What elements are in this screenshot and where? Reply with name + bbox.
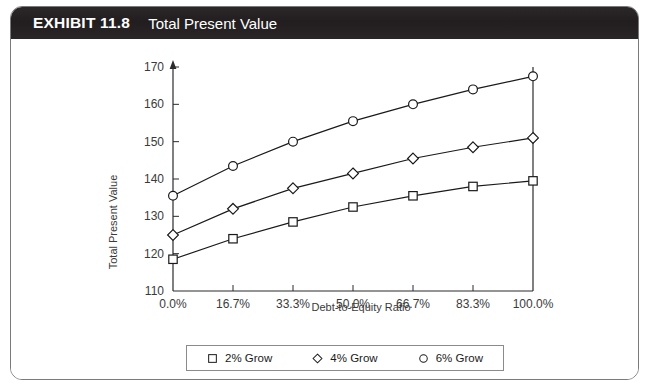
data-point-square bbox=[289, 218, 297, 226]
data-point-circle bbox=[289, 137, 298, 146]
data-point-diamond bbox=[288, 183, 299, 194]
data-point-diamond bbox=[468, 142, 479, 153]
y-axis-label: Total Present Value bbox=[107, 175, 119, 270]
x-axis-ticks: 0.0%16.7%33.3%50.0%66.7%83.3%100.0% bbox=[159, 285, 553, 311]
data-point-circle bbox=[529, 72, 538, 81]
legend-item-4pct: 4% Grow bbox=[292, 352, 397, 364]
y-tick-label: 150 bbox=[144, 135, 164, 149]
x-tick-label: 50.0% bbox=[336, 297, 370, 311]
exhibit-number: EXHIBIT 11.8 bbox=[33, 14, 130, 32]
y-tick-label: 140 bbox=[144, 172, 164, 186]
data-point-diamond bbox=[348, 168, 359, 179]
y-axis-arrow-icon bbox=[170, 60, 177, 69]
data-point-square bbox=[409, 192, 417, 200]
series-line bbox=[173, 181, 533, 259]
data-point-square bbox=[169, 255, 177, 263]
legend-label-6pct: 6% Grow bbox=[436, 352, 483, 364]
data-point-square bbox=[229, 235, 237, 243]
y-tick-label: 160 bbox=[144, 97, 164, 111]
line-chart-plot: Total Present Value Debt-to-Equity Ratio… bbox=[11, 39, 639, 380]
x-tick-label: 33.3% bbox=[276, 297, 310, 311]
legend-item-6pct: 6% Grow bbox=[398, 352, 503, 364]
x-tick-label: 0.0% bbox=[159, 297, 187, 311]
exhibit-header: EXHIBIT 11.8 Total Present Value bbox=[11, 7, 639, 39]
data-point-circle bbox=[469, 85, 478, 94]
series-group bbox=[168, 72, 539, 264]
legend-label-2pct: 2% Grow bbox=[225, 352, 272, 364]
y-tick-label: 130 bbox=[144, 209, 164, 223]
y-tick-label: 170 bbox=[144, 60, 164, 74]
y-tick-label: 120 bbox=[144, 247, 164, 261]
x-tick-label: 66.7% bbox=[396, 297, 430, 311]
data-point-square bbox=[529, 177, 537, 185]
exhibit-frame: EXHIBIT 11.8 Total Present Value Total P… bbox=[10, 6, 639, 380]
data-point-square bbox=[349, 203, 357, 211]
data-point-diamond bbox=[528, 133, 539, 144]
data-point-circle bbox=[409, 100, 418, 109]
data-point-diamond bbox=[408, 153, 419, 164]
data-point-diamond bbox=[168, 230, 179, 241]
data-point-circle bbox=[229, 162, 238, 171]
series-diamond bbox=[168, 133, 539, 241]
exhibit-title: Total Present Value bbox=[148, 15, 277, 32]
data-point-diamond bbox=[228, 203, 239, 214]
chart-area: Total Present Value Debt-to-Equity Ratio… bbox=[11, 39, 639, 380]
diamond-marker-icon bbox=[312, 353, 323, 364]
x-tick-label: 16.7% bbox=[216, 297, 250, 311]
square-marker-icon bbox=[207, 353, 218, 364]
series-square bbox=[169, 177, 537, 264]
data-point-circle bbox=[349, 117, 358, 126]
x-tick-label: 100.0% bbox=[513, 297, 554, 311]
legend-label-4pct: 4% Grow bbox=[330, 352, 377, 364]
y-tick-label: 110 bbox=[145, 284, 164, 298]
legend-item-2pct: 2% Grow bbox=[187, 352, 292, 364]
series-circle bbox=[169, 72, 538, 200]
x-tick-label: 83.3% bbox=[456, 297, 490, 311]
data-point-circle bbox=[169, 191, 178, 200]
circle-marker-icon bbox=[418, 353, 429, 364]
data-point-square bbox=[469, 182, 477, 190]
chart-legend: 2% Grow 4% Grow 6% Grow bbox=[186, 345, 504, 371]
